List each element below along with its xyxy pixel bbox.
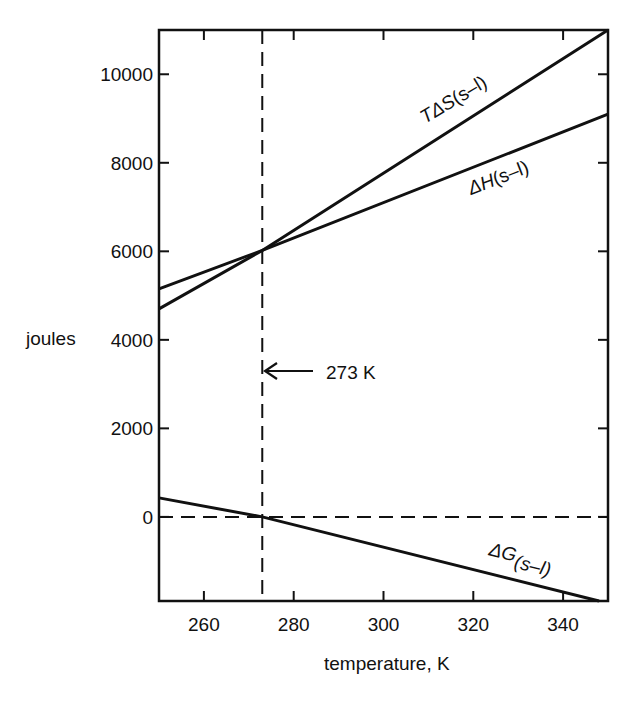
annotation-label: 273 K: [326, 362, 376, 383]
plot-frame: [159, 30, 608, 601]
series-line-tds: [159, 30, 608, 309]
annotation-273k: 273 K: [265, 362, 376, 383]
y-tick-label: 8000: [111, 153, 153, 174]
plot-area: 2602803003203400200040006000800010000: [100, 30, 608, 635]
y-tick-label: 10000: [100, 64, 153, 85]
y-tick-label: 0: [142, 507, 153, 528]
chart: 2602803003203400200040006000800010000 jo…: [0, 0, 636, 702]
y-tick-label: 2000: [111, 418, 153, 439]
series-label-tds: TΔS(s–l): [416, 71, 490, 127]
series-line-dg: [159, 498, 599, 601]
x-tick-label: 260: [188, 614, 220, 635]
x-tick-label: 340: [547, 614, 579, 635]
x-tick-label: 320: [457, 614, 489, 635]
series-line-dh: [159, 114, 608, 289]
y-tick-label: 4000: [111, 330, 153, 351]
x-tick-label: 280: [278, 614, 310, 635]
series-label-dh: ΔH(s–l): [464, 156, 532, 199]
x-axis-label: temperature, K: [324, 653, 450, 674]
y-tick-label: 6000: [111, 241, 153, 262]
y-axis-label: joules: [25, 328, 76, 349]
x-tick-label: 300: [368, 614, 400, 635]
